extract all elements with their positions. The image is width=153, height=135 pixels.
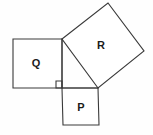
figure-canvas: Q P R: [0, 0, 153, 135]
square-p-label: P: [77, 101, 84, 113]
geometry-figure: Q P R: [0, 0, 153, 135]
square-q-label: Q: [32, 57, 41, 69]
square-r-label: R: [97, 39, 105, 51]
